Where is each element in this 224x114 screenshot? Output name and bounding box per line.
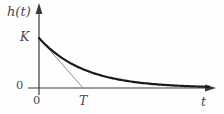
y-axis-label: h(t): [7, 5, 31, 18]
origin-zero-y-label: 0: [16, 80, 23, 92]
impulse-response-curve: [39, 38, 209, 87]
origin-zero-x-label: 0: [33, 95, 40, 107]
y-intercept-label: K: [20, 31, 29, 44]
tangent-intercept-label: T: [79, 95, 87, 108]
x-axis-arrowhead-icon: [205, 85, 216, 92]
x-axis-label: t: [201, 96, 206, 109]
y-axis-arrowhead-icon: [36, 3, 43, 14]
impulse-response-figure: h(t) K 0 0 T t: [0, 0, 224, 114]
